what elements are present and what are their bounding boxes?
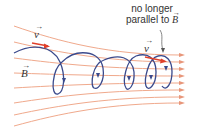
annotation-line-1: no longer	[110, 3, 194, 14]
trajectory-direction-arrowhead	[62, 78, 66, 83]
velocity-label-right: → v	[144, 42, 149, 54]
field-line-arrowhead	[179, 95, 185, 99]
annotation-note: no longer parallel to →B	[110, 3, 194, 25]
annotation-text: parallel to	[126, 14, 172, 25]
field-line	[14, 83, 180, 88]
annotation-line-2: parallel to →B	[110, 14, 194, 25]
field-symbol-inline: →B	[172, 14, 178, 25]
field-line-arrowhead	[179, 74, 185, 78]
magnetic-field-lines	[14, 26, 185, 126]
field-line-arrowhead	[179, 81, 185, 85]
field-line-arrowhead	[179, 53, 185, 57]
velocity-arrowhead-left	[44, 44, 50, 49]
field-label: → B	[21, 67, 28, 79]
field-line	[14, 103, 180, 126]
field-line-arrowhead	[179, 101, 185, 105]
field-line-arrowhead	[179, 88, 185, 92]
vector-arrow-icon: →	[173, 8, 180, 19]
vector-arrow-icon: →	[35, 22, 43, 31]
trajectory-direction-arrowhead	[149, 75, 153, 80]
annotation-pointer	[160, 30, 163, 50]
field-line-arrowhead	[179, 60, 185, 64]
vector-arrow-icon: →	[145, 36, 153, 45]
trajectory-direction-arrowhead	[127, 76, 131, 81]
vector-arrow-icon: →	[22, 61, 30, 70]
velocity-arrowhead-right	[160, 59, 167, 64]
annotation-pointer-head	[161, 48, 165, 53]
velocity-label-left: → v	[34, 28, 39, 40]
field-line-arrowhead	[179, 67, 185, 71]
